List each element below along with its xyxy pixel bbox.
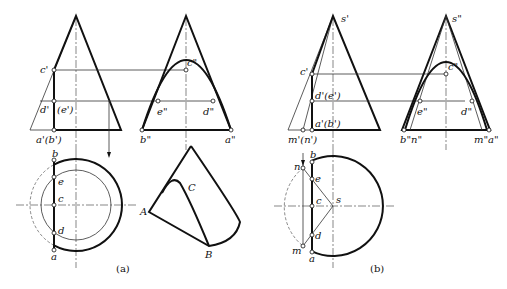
panel-a-front-view: c' d' (e') a'(b') — [30, 16, 213, 152]
label-a: a — [51, 251, 57, 262]
panel-b-side-view: s" c" e" d" b"n" m"a" — [400, 13, 499, 150]
label-c-prime-b: c' — [300, 66, 308, 77]
label-m-top: m — [292, 245, 301, 256]
label-e: e — [58, 176, 64, 187]
label-A: A — [139, 206, 147, 217]
label-a-dbl: a" — [225, 134, 236, 145]
label-d: d — [58, 225, 64, 236]
label-d-top-b: d — [315, 230, 321, 241]
caption-b: (b) — [370, 263, 384, 274]
label-s-top: s — [336, 194, 341, 205]
label-s-prime: s' — [341, 13, 349, 24]
label-c: c — [58, 193, 64, 204]
label-c-dbl: c" — [187, 57, 197, 68]
panel-a-top-view: b e c d a — [16, 148, 136, 268]
label-n-top: n — [294, 161, 300, 172]
label-a-top-b: a — [309, 253, 315, 264]
label-c-top-b: c — [316, 195, 322, 206]
label-ab-prime-b: a'(b') — [315, 118, 341, 129]
label-d-dbl-b: d" — [461, 106, 472, 117]
panel-a-side-view: c" e" d" b" a" — [140, 16, 236, 150]
label-c-dbl-b: c" — [448, 61, 458, 72]
label-B: B — [204, 249, 212, 260]
label-mn-prime: m'(n') — [288, 134, 317, 145]
label-d-prime: d' — [40, 104, 49, 115]
panel-a: c' d' (e') a'(b') c" e" d" b" a" — [16, 16, 240, 274]
label-e-prime: (e') — [57, 104, 74, 115]
caption-a: (a) — [116, 263, 130, 274]
panel-b: s' c' d'(e') a'(b') m'(n') s" c" e" d" b… — [274, 13, 499, 274]
panel-b-top-view: b n e c s d m a — [274, 149, 395, 268]
label-b-top-b: b — [310, 149, 316, 160]
cone-section-drawing: c' d' (e') a'(b') c" e" d" b" a" — [0, 0, 507, 289]
label-ab-prime: a'(b') — [36, 134, 62, 145]
label-e-dbl: e" — [157, 106, 168, 117]
label-ma-dbl: m"a" — [474, 134, 499, 145]
label-bn-dbl: b"n" — [400, 134, 422, 145]
label-c-prime: c' — [40, 64, 48, 75]
label-b-dbl: b" — [140, 134, 151, 145]
label-b: b — [52, 148, 58, 159]
label-e-dbl-b: e" — [417, 106, 428, 117]
label-e-top-b: e — [315, 173, 321, 184]
label-d-dbl: d" — [203, 106, 214, 117]
label-s-dbl: s" — [452, 13, 462, 24]
panel-a-pictorial: A B C — [139, 146, 240, 260]
label-C: C — [188, 182, 196, 193]
label-de-prime: d'(e') — [315, 90, 341, 101]
